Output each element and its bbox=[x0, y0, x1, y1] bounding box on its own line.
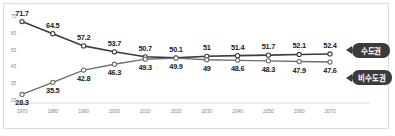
x-tick-2010: 2010 bbox=[132, 108, 158, 114]
x-tick-1990: 1990 bbox=[71, 108, 97, 114]
x-tick-2060: 2060 bbox=[286, 108, 312, 114]
data-label: 48.6 bbox=[223, 65, 253, 73]
data-point-marker[interactable] bbox=[236, 58, 240, 62]
data-label: 51.7 bbox=[253, 43, 283, 51]
data-point-marker[interactable] bbox=[20, 19, 24, 23]
data-label: 35.5 bbox=[38, 87, 68, 95]
data-point-marker[interactable] bbox=[266, 53, 270, 57]
data-point-marker[interactable] bbox=[297, 52, 301, 56]
data-point-marker[interactable] bbox=[266, 59, 270, 63]
data-point-marker[interactable] bbox=[143, 57, 147, 61]
y-tick-55: 55 bbox=[2, 47, 16, 53]
data-label: 50.1 bbox=[161, 46, 191, 54]
data-label: 49.3 bbox=[130, 64, 160, 72]
data-point-marker[interactable] bbox=[328, 60, 332, 64]
legend-tag-capital-area[interactable]: 수도권 bbox=[352, 43, 390, 58]
data-point-marker[interactable] bbox=[112, 62, 116, 66]
data-label: 57.2 bbox=[69, 34, 99, 42]
data-point-marker[interactable] bbox=[112, 50, 116, 54]
data-label: 46.3 bbox=[99, 69, 129, 77]
data-point-marker[interactable] bbox=[328, 52, 332, 56]
data-point-marker[interactable] bbox=[297, 59, 301, 63]
data-point-marker[interactable] bbox=[205, 58, 209, 62]
data-point-marker[interactable] bbox=[51, 32, 55, 36]
data-label: 48.3 bbox=[253, 66, 283, 74]
chart-screenshot: 756555453525 197019801990200020102020203… bbox=[0, 0, 395, 136]
y-tick-45: 45 bbox=[2, 63, 16, 69]
data-point-marker[interactable] bbox=[82, 44, 86, 48]
x-tick-2050: 2050 bbox=[255, 108, 281, 114]
x-tick-2030: 2030 bbox=[194, 108, 220, 114]
data-label: 53.7 bbox=[99, 40, 129, 48]
data-label: 71.7 bbox=[7, 10, 37, 18]
data-label: 51 bbox=[192, 44, 222, 52]
x-tick-2000: 2000 bbox=[101, 108, 127, 114]
data-label: 47.9 bbox=[284, 67, 314, 75]
data-label: 51.4 bbox=[223, 44, 253, 52]
data-label: 52.4 bbox=[315, 42, 345, 50]
data-label: 28.3 bbox=[7, 99, 37, 107]
data-point-marker[interactable] bbox=[174, 56, 178, 60]
data-label: 49 bbox=[192, 65, 222, 73]
data-label: 47.6 bbox=[315, 67, 345, 75]
data-label: 64.5 bbox=[38, 22, 68, 30]
x-tick-2070: 2070 bbox=[317, 108, 343, 114]
x-tick-2020: 2020 bbox=[163, 108, 189, 114]
data-label: 50.7 bbox=[130, 45, 160, 53]
data-label: 52.1 bbox=[284, 42, 314, 50]
x-tick-1970: 1970 bbox=[9, 108, 35, 114]
series-group bbox=[20, 19, 332, 96]
data-label: 42.8 bbox=[69, 75, 99, 83]
x-tick-2040: 2040 bbox=[225, 108, 251, 114]
legend-upper-label: 수도권 bbox=[361, 45, 381, 56]
plot-area: 756555453525 197019801990200020102020203… bbox=[0, 0, 395, 136]
y-tick-35: 35 bbox=[2, 80, 16, 86]
data-point-marker[interactable] bbox=[236, 54, 240, 58]
x-tick-1980: 1980 bbox=[40, 108, 66, 114]
legend-lower-label: 비수도권 bbox=[358, 72, 385, 83]
legend-tag-non-capital-area[interactable]: 비수도권 bbox=[352, 70, 392, 85]
data-point-marker[interactable] bbox=[82, 68, 86, 72]
y-tick-65: 65 bbox=[2, 30, 16, 36]
data-point-marker[interactable] bbox=[20, 92, 24, 96]
data-point-marker[interactable] bbox=[51, 80, 55, 84]
data-label: 49.9 bbox=[161, 63, 191, 71]
